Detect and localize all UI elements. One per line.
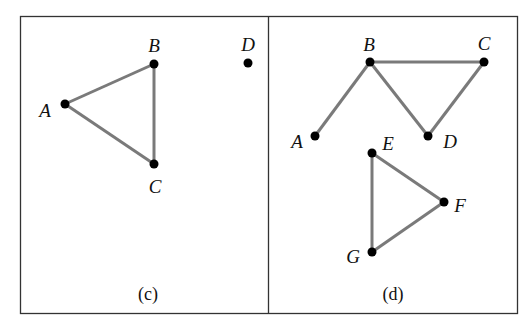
vertex-G xyxy=(368,248,377,257)
vertex-label-G: G xyxy=(346,247,360,266)
vertex-A xyxy=(311,132,320,141)
caption-c: (c) xyxy=(138,285,158,303)
edge-EF xyxy=(372,153,444,202)
vertex-label-C: C xyxy=(478,34,491,53)
vertex-A xyxy=(61,100,70,109)
edge-AC xyxy=(65,104,154,164)
vertex-label-B: B xyxy=(148,36,160,55)
vertex-D xyxy=(424,132,433,141)
vertex-label-D: D xyxy=(241,35,255,54)
edge-BD xyxy=(370,62,428,136)
vertex-label-D: D xyxy=(443,132,457,151)
vertex-D xyxy=(244,59,253,68)
edge-AB xyxy=(65,64,154,104)
vertex-label-C: C xyxy=(149,177,162,196)
vertex-label-E: E xyxy=(382,134,394,153)
caption-d: (d) xyxy=(383,285,404,303)
graph-diagram xyxy=(0,0,527,321)
vertex-label-B: B xyxy=(363,35,375,54)
vertex-label-F: F xyxy=(454,196,466,215)
vertex-C xyxy=(480,58,489,67)
vertices xyxy=(61,58,489,257)
vertex-E xyxy=(368,149,377,158)
edge-AB xyxy=(315,62,370,136)
edge-FG xyxy=(372,202,444,252)
vertex-B xyxy=(150,60,159,69)
vertex-label-A: A xyxy=(291,132,303,151)
vertex-C xyxy=(150,160,159,169)
edges xyxy=(65,62,484,252)
vertex-label-A: A xyxy=(39,101,51,120)
edge-CD xyxy=(428,62,484,136)
vertex-B xyxy=(366,58,375,67)
vertex-F xyxy=(440,198,449,207)
